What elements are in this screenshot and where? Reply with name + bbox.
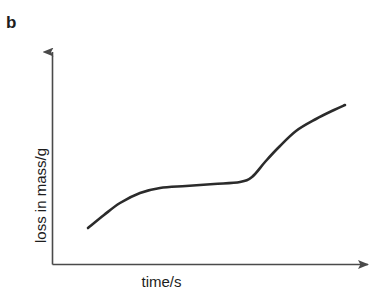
plot-area (0, 0, 387, 298)
y-axis-title: loss in mass/g (33, 148, 48, 243)
figure-panel-b: b loss in mass/g time/s (0, 0, 387, 298)
data-curve-loss-in-mass (88, 105, 345, 228)
x-axis-title: time/s (0, 274, 355, 289)
